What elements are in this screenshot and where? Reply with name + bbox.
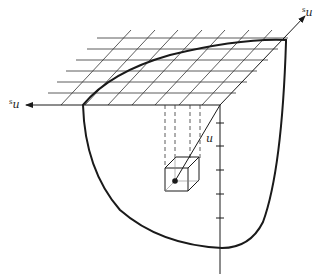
- cube-element: [165, 157, 199, 191]
- left-axis-label: su: [9, 98, 20, 111]
- point-marker: [172, 178, 178, 184]
- radial-label: u: [206, 132, 213, 145]
- diagram-canvas: su su u: [0, 0, 316, 276]
- right-axis: [220, 16, 305, 105]
- projection-lines: [165, 105, 200, 165]
- radial-line: [175, 105, 220, 181]
